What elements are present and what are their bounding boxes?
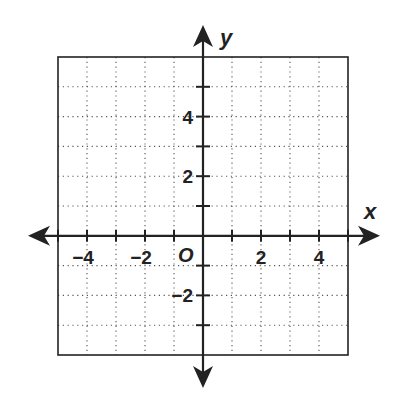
origin-label: O [178,244,194,266]
y-axis-label: y [219,25,234,50]
x-axis-label: x [363,199,377,224]
x-tick-label: −2 [130,247,152,268]
x-tick-label: 4 [314,247,325,268]
coordinate-plane: −4−22442−2 x y O [0,0,400,409]
y-tick-label: −2 [171,285,193,306]
y-tick-label: 4 [182,107,193,128]
x-tick-label: −4 [72,247,94,268]
y-tick-label: 2 [182,166,193,187]
x-tick-label: 2 [256,247,267,268]
